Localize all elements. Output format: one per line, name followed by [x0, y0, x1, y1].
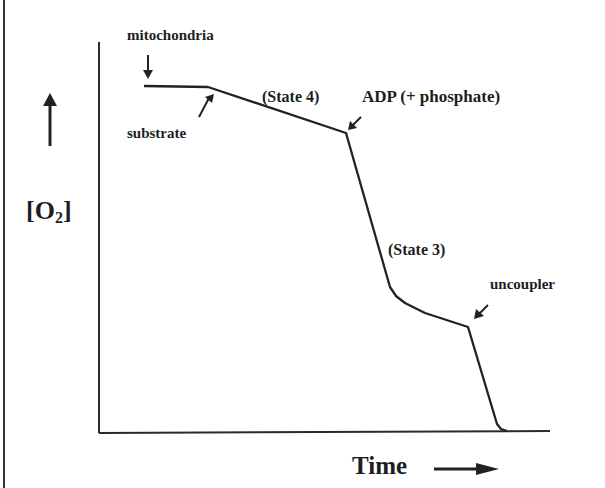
state4-label: (State 4) — [262, 88, 319, 106]
mitochondria-label: mitochondria — [127, 27, 214, 44]
adp-arrow-icon — [348, 117, 361, 130]
substrate-arrow-icon — [199, 94, 214, 117]
y-axis-label: [O2] — [26, 196, 72, 227]
substrate-label: substrate — [127, 125, 186, 142]
adp-label: ADP (+ phosphate) — [362, 87, 500, 107]
x-axis-label: Time — [352, 452, 407, 480]
x-direction-arrow-icon — [434, 463, 499, 475]
uncoupler-arrow-icon — [474, 305, 488, 319]
uncoupler-label: uncoupler — [490, 276, 555, 293]
y-axis-label-subscript: 2 — [55, 209, 63, 226]
x-axis — [99, 431, 550, 433]
state3-label: (State 3) — [388, 241, 445, 259]
chart-svg — [0, 0, 605, 488]
figure: mitochondria substrate (State 4) ADP (+ … — [0, 0, 605, 488]
y-axis-label-suffix: ] — [63, 196, 72, 225]
y-direction-arrow-icon — [43, 93, 57, 146]
y-axis-label-prefix: [O — [26, 196, 55, 225]
o2-trace-line — [144, 86, 507, 431]
mitochondria-arrow-icon — [143, 55, 153, 79]
